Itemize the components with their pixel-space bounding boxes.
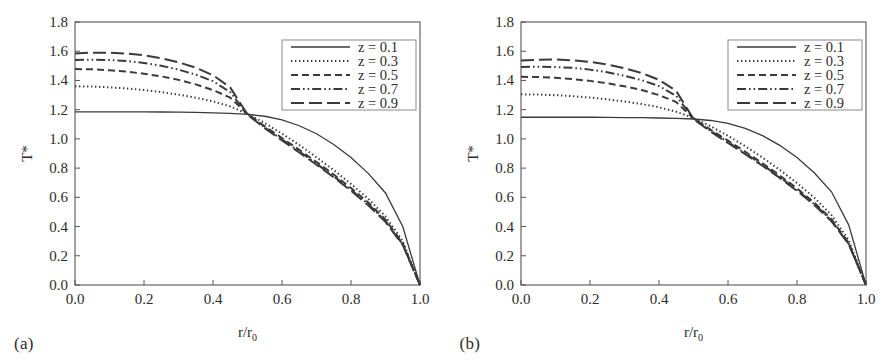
x-tick-label: 0.4 [649,291,668,307]
x-tick-label: 0.2 [135,291,154,307]
y-tick-label: 0.0 [495,277,514,293]
legend-label-5: z = 0.9 [804,95,844,111]
y-tick-label: 0.0 [49,277,68,293]
x-tick-label: 1.0 [856,291,875,307]
panel-label-a: (a) [14,334,34,354]
x-tick-label: 1.0 [411,291,430,307]
y-tick-label: 1.2 [495,102,514,118]
y-tick-label: 1.0 [49,131,68,147]
y-tick-label: 1.2 [49,102,68,118]
y-tick-label: 1.6 [49,43,68,59]
y-tick-label: 0.6 [49,189,68,205]
legend-label-5: z = 0.9 [358,95,398,111]
x-tick-label: 0.6 [718,291,737,307]
x-tick-label: 0.0 [511,291,530,307]
x-tick-label: 0.8 [342,291,361,307]
figure-two-panel-temperature-profiles: 0.00.20.40.60.81.00.00.20.40.60.81.01.21… [0,0,891,360]
y-tick-label: 1.6 [495,43,514,59]
plot-area-a: 0.00.20.40.60.81.00.00.20.40.60.81.01.21… [0,0,446,360]
panel-b: 0.00.20.40.60.81.00.00.20.40.60.81.01.21… [446,0,891,360]
y-tick-label: 0.2 [49,248,68,264]
y-tick-label: 0.8 [49,160,68,176]
y-tick-label: 0.8 [495,160,514,176]
plot-area-b: 0.00.20.40.60.81.00.00.20.40.60.81.01.21… [446,0,891,360]
y-axis-title: T* [465,145,481,162]
y-tick-label: 1.4 [495,72,514,88]
x-axis-title: r/r0 [238,324,257,343]
y-tick-label: 0.4 [495,219,514,235]
y-tick-label: 1.8 [49,14,68,30]
y-tick-label: 0.2 [495,248,514,264]
y-tick-label: 0.4 [49,219,68,235]
series-line-2 [521,94,866,285]
panel-a: 0.00.20.40.60.81.00.00.20.40.60.81.01.21… [0,0,446,360]
x-tick-label: 0.0 [66,291,85,307]
series-line-2 [75,86,420,285]
y-axis-title: T* [19,145,35,162]
x-axis-title: r/r0 [683,324,702,343]
y-tick-label: 1.8 [495,14,514,30]
y-tick-label: 0.6 [495,189,514,205]
series-line-1 [521,117,866,285]
x-tick-label: 0.8 [787,291,806,307]
x-tick-label: 0.2 [580,291,599,307]
series-line-1 [75,112,420,285]
x-tick-label: 0.6 [273,291,292,307]
y-tick-label: 1.0 [495,131,514,147]
x-tick-label: 0.4 [204,291,223,307]
y-tick-label: 1.4 [49,72,68,88]
panel-label-b: (b) [460,334,481,354]
